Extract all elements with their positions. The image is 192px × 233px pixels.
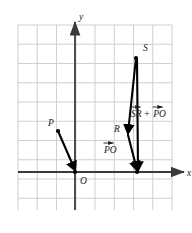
annotation-operator: +: [144, 109, 149, 119]
vectors: [58, 58, 138, 170]
annotations: SR+POPO: [103, 107, 166, 155]
po-label: PO: [103, 143, 117, 155]
point-marker-o: [73, 170, 77, 174]
annotation-term: SR: [131, 109, 142, 119]
y-axis-label: y: [78, 12, 84, 22]
vector-diagram-figure: x y PORS SR+POPO: [0, 0, 192, 233]
sum-label: SR+PO: [131, 107, 167, 119]
axes: x y: [18, 12, 192, 210]
point-label-s: S: [143, 43, 148, 53]
point-marker-s: [134, 56, 138, 60]
point-marker-p: [56, 129, 60, 133]
point-label-r: R: [113, 124, 120, 134]
point-label-o: O: [80, 176, 87, 186]
point-marker-t: [135, 170, 139, 174]
point-label-p: P: [47, 118, 54, 128]
annotation-term: PO: [152, 109, 166, 119]
vector-po: [58, 131, 75, 170]
diagram-canvas: x y PORS SR+POPO: [0, 0, 192, 233]
vector-sr: [128, 58, 136, 133]
x-axis-label: x: [186, 168, 192, 178]
annotation-term: PO: [103, 145, 117, 155]
